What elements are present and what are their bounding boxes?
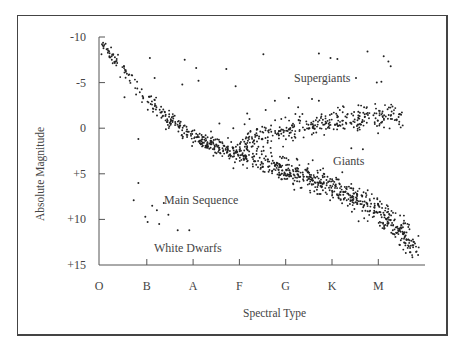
star-dot <box>383 55 385 57</box>
star-dot <box>362 148 364 150</box>
star-dot <box>239 146 241 148</box>
star-dot <box>356 203 358 205</box>
star-dot <box>167 214 169 216</box>
star-dot <box>389 127 391 129</box>
star-dot <box>262 53 264 55</box>
star-dot <box>116 58 118 60</box>
star-dot <box>155 109 157 111</box>
star-dot <box>214 139 216 141</box>
star-dot <box>168 113 170 115</box>
star-dot <box>276 165 278 167</box>
star-dot <box>404 242 406 244</box>
star-dot <box>388 114 390 116</box>
star-dot <box>287 130 289 132</box>
star-dot <box>363 106 365 108</box>
star-dot <box>293 189 295 191</box>
star-dot <box>278 130 280 132</box>
star-dot <box>177 131 179 133</box>
star-dot <box>359 129 361 131</box>
star-dot <box>230 156 232 158</box>
star-dot <box>327 127 329 129</box>
star-dot <box>400 225 402 227</box>
star-dot <box>114 62 116 64</box>
star-dot <box>323 134 325 136</box>
star-dot <box>343 191 345 193</box>
star-dot <box>365 192 367 194</box>
star-dot <box>253 156 255 158</box>
star-dot <box>216 146 218 148</box>
star-dot <box>415 246 417 248</box>
x-tick-label: O <box>95 279 104 293</box>
star-dot <box>246 158 248 160</box>
star-dot <box>256 134 258 136</box>
star-dot <box>330 57 332 59</box>
star-dot <box>398 227 400 229</box>
star-dot <box>274 100 276 102</box>
star-dot <box>296 180 298 182</box>
star-dot <box>273 162 275 164</box>
star-dot <box>363 191 365 193</box>
star-dot <box>174 121 176 123</box>
star-dot <box>177 124 179 126</box>
star-dot <box>348 186 350 188</box>
star-dot <box>154 105 156 107</box>
star-dot <box>379 201 381 203</box>
star-dot <box>303 136 305 138</box>
star-dot <box>256 153 258 155</box>
star-dot <box>288 120 290 122</box>
star-dot <box>111 59 113 61</box>
star-dot <box>400 239 402 241</box>
star-dot <box>317 184 319 186</box>
star-dot <box>236 151 238 153</box>
star-dot <box>181 129 183 131</box>
star-dot <box>403 232 405 234</box>
star-dot <box>312 127 314 129</box>
star-dot <box>315 132 317 134</box>
star-dot <box>186 136 188 138</box>
star-dot <box>167 120 169 122</box>
star-dot <box>191 145 193 147</box>
star-dot <box>101 53 103 55</box>
star-dot <box>384 216 386 218</box>
star-dot <box>309 192 311 194</box>
star-dot <box>399 113 401 115</box>
star-dot <box>316 189 318 191</box>
star-dot <box>308 163 310 165</box>
star-dot <box>322 167 324 169</box>
star-dot <box>154 77 156 79</box>
star-dot <box>363 125 365 127</box>
star-dot <box>259 131 261 133</box>
star-dot <box>235 85 237 87</box>
star-dot <box>373 212 375 214</box>
star-dot <box>386 225 388 227</box>
star-dot <box>401 111 403 113</box>
star-dot <box>294 133 296 135</box>
star-dot <box>409 228 411 230</box>
star-dot <box>318 182 320 184</box>
star-dot <box>201 136 203 138</box>
star-dot <box>183 132 185 134</box>
star-dot <box>354 119 356 121</box>
star-dot <box>403 238 405 240</box>
star-dot <box>151 100 153 102</box>
star-dot <box>311 134 313 136</box>
star-dot <box>136 81 138 83</box>
star-dot <box>311 184 313 186</box>
star-dot <box>342 194 344 196</box>
star-dot <box>278 163 280 165</box>
star-dot <box>202 145 204 147</box>
star-dot <box>379 123 381 125</box>
star-dot <box>306 127 308 129</box>
star-dot <box>232 167 234 169</box>
star-dot <box>398 116 400 118</box>
star-dot <box>394 107 396 109</box>
star-dot <box>277 133 279 135</box>
star-dot <box>159 109 161 111</box>
star-dot <box>392 212 394 214</box>
star-dot <box>349 200 351 202</box>
star-dot <box>240 159 242 161</box>
star-dot <box>278 166 280 168</box>
star-dot <box>289 169 291 171</box>
star-dot <box>198 136 200 138</box>
star-dot <box>394 236 396 238</box>
